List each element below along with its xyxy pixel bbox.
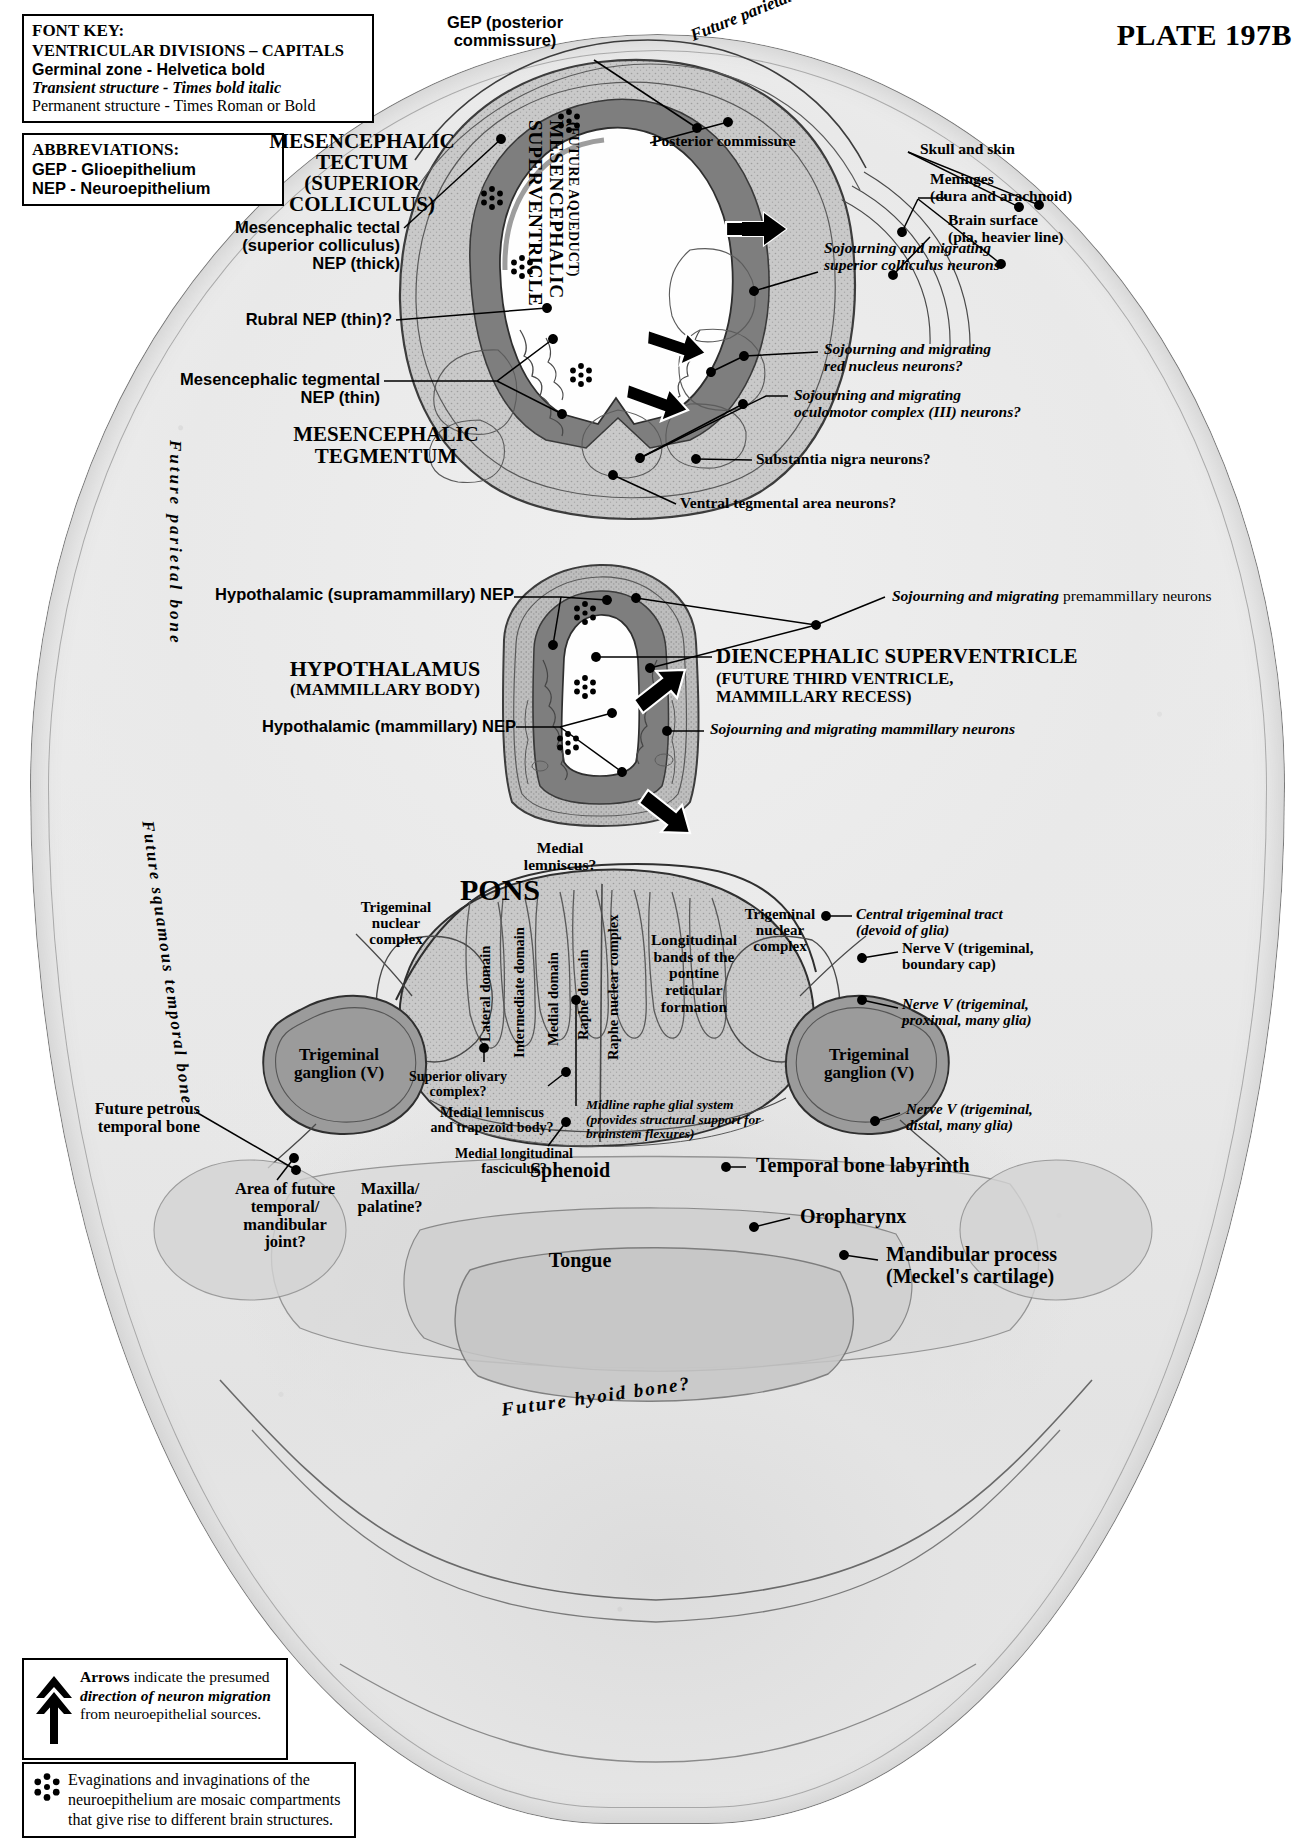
mosaic-star-icon <box>509 254 535 280</box>
label-medial-domain: Medial domain <box>546 920 562 1046</box>
abbreviations-box: ABBREVIATIONS: GEP - Glioepithelium NEP … <box>22 133 284 206</box>
label-medial-lemniscus-trapezoid: Medial lemniscus and trapezoid body? <box>412 1105 572 1135</box>
mosaic-star-icon <box>572 674 598 700</box>
label-sojourning-oculomotor: Sojourning and migrating oculomotor comp… <box>794 387 1021 420</box>
label-gep-posterior-commissure: GEP (posterior commissure) <box>405 14 605 50</box>
label-raphe-nuclear-complex: Raphe nuclear complex <box>606 900 622 1060</box>
label-central-trigeminal-tract: Central trigeminal tract (devoid of glia… <box>856 906 1003 938</box>
label-intermediate-domain: Intermediate domain <box>512 910 528 1058</box>
label-skull-and-skin: Skull and skin <box>920 141 1015 158</box>
label-trigeminal-ganglion-right: Trigeminal ganglion (V) <box>802 1046 936 1083</box>
mosaic-star-icon <box>568 362 594 388</box>
label-nerve-v-distal: Nerve V (trigeminal, distal, many glia) <box>906 1101 1033 1133</box>
atlas-plate: PLATE 197B FONT KEY: VENTRICULAR DIVISIO… <box>0 0 1314 1845</box>
font-key-heading: FONT KEY: <box>32 21 364 41</box>
label-meninges: Meninges (dura and arachnoid) <box>930 171 1072 204</box>
arrows-legend-italic-phrase: direction of neuron migration <box>80 1687 271 1704</box>
font-key-line-permanent: Permanent structure - Times Roman or Bol… <box>32 97 364 115</box>
arrows-legend-text-1: indicate the presumed <box>130 1668 270 1685</box>
label-hypothalamus-sub: (MAMMILLARY BODY) <box>260 681 510 699</box>
label-hypothalamic-supramammillary-nep: Hypothalamic (supramammillary) NEP <box>150 586 514 604</box>
mosaic-star-icon <box>572 600 598 626</box>
label-hypothalamic-mammillary-nep: Hypothalamic (mammillary) NEP <box>166 718 516 736</box>
label-nerve-v-boundary-cap: Nerve V (trigeminal, boundary cap) <box>902 940 1034 972</box>
label-oropharynx: Oropharynx <box>800 1206 906 1228</box>
label-maxilla-palatine: Maxilla/ palatine? <box>330 1180 450 1216</box>
label-future-parietal-bone-left: Future parietal bone <box>166 440 184 650</box>
arrows-legend-box: Arrows indicate the presumed direction o… <box>22 1658 288 1760</box>
label-sphenoid: Sphenoid <box>490 1160 650 1182</box>
mosaic-star-icon <box>556 108 582 134</box>
label-future-petrous-temporal-bone: Future petrous temporal bone <box>10 1100 200 1136</box>
label-rubral-nep: Rubral NEP (thin)? <box>120 311 392 329</box>
label-mesencephalic-tegmental-nep: Mesencephalic tegmental NEP (thin) <box>40 371 380 407</box>
label-ventral-tegmental: Ventral tegmental area neurons? <box>680 495 896 512</box>
label-substantia-nigra: Substantia nigra neurons? <box>756 451 931 468</box>
label-sojourning-premammillary-italic: Sojourning and migrating <box>892 587 1059 604</box>
label-superior-olivary: Superior olivary complex? <box>388 1069 528 1099</box>
label-hypothalamus: HYPOTHALAMUS <box>260 657 510 681</box>
arrows-legend-bold-word: Arrows <box>80 1668 130 1685</box>
star-legend-text: Evaginations and invaginations of the ne… <box>68 1770 348 1830</box>
label-raphe-domain: Raphe domain <box>576 920 592 1040</box>
label-pons: PONS <box>420 874 580 906</box>
label-trigeminal-ganglion-left: Trigeminal ganglion (V) <box>272 1046 406 1083</box>
abbreviations-heading: ABBREVIATIONS: <box>32 140 274 160</box>
font-key-line-germinal: Germinal zone - Helvetica bold <box>32 61 364 79</box>
label-sojourning-red-nucleus: Sojourning and migrating red nucleus neu… <box>824 341 991 374</box>
star-legend-box: Evaginations and invaginations of the ne… <box>22 1762 356 1838</box>
label-tongue: Tongue <box>500 1250 660 1272</box>
mosaic-star-icon <box>32 1772 62 1802</box>
label-sojourning-premammillary-roman: premammillary neurons <box>1059 587 1211 604</box>
arrows-legend-text-2: from neuroepithelial sources. <box>80 1705 261 1722</box>
label-trigeminal-nuclear-complex-left: Trigeminal nuclear complex <box>348 899 444 948</box>
abbrev-nep: NEP - Neuroepithelium <box>32 179 274 198</box>
label-posterior-commissure: Posterior commissure <box>652 133 796 150</box>
label-lateral-domain: Lateral domain <box>478 922 494 1042</box>
font-key-box: FONT KEY: VENTRICULAR DIVISIONS – CAPITA… <box>22 14 374 123</box>
label-sojourning-mammillary: Sojourning and migrating mammillary neur… <box>710 721 1015 738</box>
font-key-line-capitals: VENTRICULAR DIVISIONS – CAPITALS <box>32 41 364 61</box>
label-sojourning-premammillary: Sojourning and migrating premammillary n… <box>892 588 1212 605</box>
mosaic-star-icon <box>555 730 581 756</box>
font-key-line-transient: Transient structure - Times bold italic <box>32 79 364 97</box>
label-diencephalic-superventricle-sub: (FUTURE THIRD VENTRICLE, MAMMILLARY RECE… <box>716 670 953 706</box>
arrows-legend-text: Arrows indicate the presumed direction o… <box>80 1668 280 1724</box>
abbrev-gep: GEP - Glioepithelium <box>32 160 274 179</box>
label-nerve-v-proximal: Nerve V (trigeminal, proximal, many glia… <box>902 996 1032 1028</box>
label-mesencephalic-tegmentum: MESENCEPHALIC TEGMENTUM <box>266 423 506 467</box>
head-section-outline <box>30 34 1285 1824</box>
label-mesencephalic-superventricle-sub: (FUTURE AQUEDUCT) <box>566 122 581 342</box>
label-midline-raphe-glial: Midline raphe glial system (provides str… <box>586 1098 760 1142</box>
label-sojourning-superior-colliculus: Sojourning and migrating superior collic… <box>824 240 1000 273</box>
label-mandibular-process: Mandibular process (Meckel's cartilage) <box>886 1243 1057 1287</box>
label-temporal-bone-labyrinth: Temporal bone labyrinth <box>756 1155 970 1177</box>
mosaic-star-icon <box>479 185 505 211</box>
label-longitudinal-bands: Longitudinal bands of the pontine reticu… <box>634 932 754 1016</box>
label-medial-lemniscus: Medial lemniscus? <box>490 840 630 873</box>
label-mesencephalic-tectal-nep: Mesencephalic tectal (superior colliculu… <box>60 219 400 272</box>
page-title: PLATE 197B <box>1117 18 1292 52</box>
label-mesencephalic-superventricle: MESENCEPHALIC SUPERVENTRICLE <box>525 120 567 360</box>
label-mesencephalic-tectum: MESENCEPHALIC TECTUM (SUPERIOR COLLICULU… <box>252 131 472 215</box>
label-diencephalic-superventricle: DIENCEPHALIC SUPERVENTRICLE <box>716 645 1078 668</box>
migration-arrow-icon <box>34 1672 74 1748</box>
